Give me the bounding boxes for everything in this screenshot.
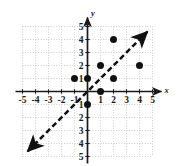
x-axis-tick-label: -2 — [58, 95, 66, 105]
y-axis-tick-label: 1 — [79, 100, 84, 110]
y-axis-tick-label: 5 — [79, 152, 84, 162]
y-axis-tick-label: 5 — [79, 22, 84, 32]
axis-name-labels: xy — [90, 8, 170, 96]
x-axis-tick-label: 4 — [137, 95, 142, 105]
y-axis-tick-label: 4 — [79, 139, 84, 149]
data-point — [136, 62, 143, 69]
x-axis-tick-label: 5 — [150, 95, 155, 105]
x-axis-tick-label: -4 — [32, 95, 40, 105]
y-axis-tick-label: 1 — [79, 74, 84, 84]
x-axis-name-label: x — [164, 85, 170, 95]
x-axis-tick-label: 1 — [98, 95, 103, 105]
y-axis-tick-label: 3 — [79, 126, 84, 136]
figure-canvas: -5-4-3-2-1123455432112345 xy — [0, 0, 180, 166]
coordinate-plane-graph: -5-4-3-2-1123455432112345 xy — [0, 0, 180, 166]
y-axis-tick-label: 3 — [79, 48, 84, 58]
y-axis-tick-label: 4 — [79, 35, 84, 45]
y-axis-tick-label: 2 — [79, 61, 84, 71]
y-axis-tick-label: 2 — [79, 113, 84, 123]
data-point — [110, 36, 117, 43]
x-axis-tick-label: -5 — [19, 95, 27, 105]
data-point — [110, 75, 117, 82]
data-point — [97, 88, 104, 95]
data-point — [71, 75, 78, 82]
data-point — [97, 62, 104, 69]
y-axis-name-label: y — [90, 8, 95, 18]
data-point — [84, 75, 91, 82]
x-axis-tick-label: 3 — [124, 95, 129, 105]
x-axis-tick-label: -3 — [45, 95, 53, 105]
data-point — [84, 101, 91, 108]
x-axis-tick-label: 2 — [111, 95, 116, 105]
